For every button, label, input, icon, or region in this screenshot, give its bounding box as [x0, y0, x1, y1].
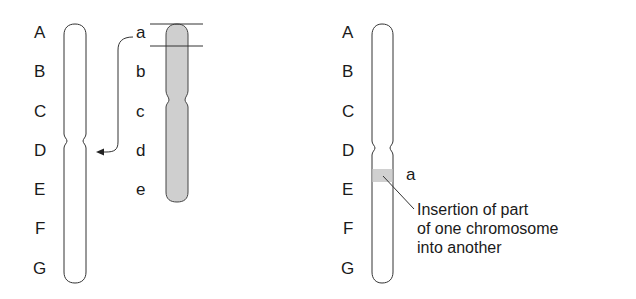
label-F: F — [35, 220, 45, 237]
label-d: d — [136, 142, 145, 159]
right-label-B: B — [342, 63, 353, 80]
caption-line-1: Insertion of part — [417, 200, 558, 219]
label-b: b — [136, 63, 145, 80]
right-label-E: E — [342, 181, 353, 198]
label-e: e — [136, 181, 145, 198]
label-G: G — [33, 260, 46, 277]
chromosome-1 — [64, 24, 86, 283]
chromosome-recombined — [372, 24, 393, 283]
label-B: B — [34, 63, 45, 80]
label-D: D — [34, 142, 46, 159]
chromosome-2 — [166, 24, 188, 202]
label-a: a — [136, 24, 145, 41]
right-label-C: C — [342, 103, 354, 120]
right-label-A: A — [342, 24, 353, 41]
transfer-arrow — [100, 37, 133, 152]
label-A: A — [34, 24, 45, 41]
right-label-G: G — [341, 260, 354, 277]
caption-line-2: of one chromosome — [417, 219, 558, 238]
label-C: C — [34, 103, 46, 120]
arrowhead-icon — [96, 149, 104, 156]
label-E: E — [34, 181, 45, 198]
caption: Insertion of part of one chromosome into… — [417, 200, 558, 257]
inserted-segment-label: a — [406, 166, 415, 183]
caption-line-3: into another — [417, 238, 558, 257]
right-label-F: F — [343, 220, 353, 237]
right-label-D: D — [342, 142, 354, 159]
label-c: c — [136, 103, 145, 120]
inserted-band — [373, 169, 393, 182]
